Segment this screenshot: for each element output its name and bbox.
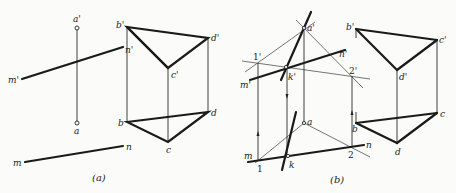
label-a-b: a [307,117,312,127]
line-m-n-b [248,145,364,162]
label-c: c [166,145,171,155]
label-n-prime: n' [125,45,133,55]
label-m: m [13,158,22,168]
label-d-prime-b: d' [399,72,407,82]
label-k: k [289,160,294,170]
arrow-up-1 [257,131,260,136]
label-d-b: d [395,147,401,157]
prism-b [356,29,437,143]
figure-a: a' a m' n' m n b' d' c' b d c (a) [8,14,219,183]
label-b-prime: b' [116,20,124,30]
label-2-prime: 2' [349,66,357,76]
caption-b: (b) [330,174,344,185]
label-m-b: m [244,151,253,161]
label-a-prime-b: a' [307,23,315,33]
label-n-b: n [366,140,372,150]
label-c-prime: c' [171,70,179,80]
caption-a: (a) [92,172,106,183]
label-a-prime: a' [73,14,81,24]
label-1-prime: 1' [253,52,261,62]
label-b-prime-b: b' [346,22,354,32]
label-m-prime-b: m' [240,80,251,90]
line-m-n [25,146,123,162]
prism-a [127,27,208,142]
label-2: 2 [348,150,354,160]
label-b: b [118,118,124,128]
line-m-n-prime-b [250,50,345,80]
arrow-down-k [286,94,289,99]
projection-diagram: a' a m' n' m n b' d' c' b d c (a) [0,0,456,193]
figure-b: 1' k' a' 2' m' n' a m 1 k 2 n b' c' d' b… [240,12,447,185]
point-a-b [302,121,305,124]
label-d: d [211,108,217,118]
label-k-prime: k' [288,72,296,82]
point-a-prime [75,26,79,30]
point-a [75,121,79,125]
label-n-prime-b: n' [339,49,347,59]
label-d-prime: d' [211,33,219,43]
label-c-b: c [440,109,445,119]
label-1: 1 [257,164,263,174]
point-k-prime [284,65,287,68]
line-m-n-prime [22,47,123,79]
label-n: n [126,142,132,152]
arrow-up-2 [351,110,354,115]
label-c-prime-b: c' [439,35,447,45]
label-m-prime: m' [8,75,19,85]
point-k [286,154,289,157]
label-b-b: b [352,124,358,134]
label-a: a [74,126,79,136]
point-a-prime-b [302,26,305,29]
